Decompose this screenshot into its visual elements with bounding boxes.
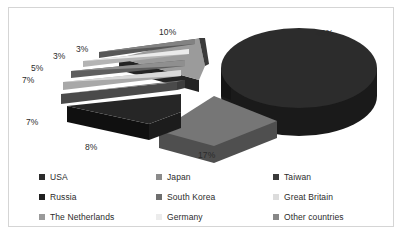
pie-chart-plot-area: 40% 17% 10% 8% 7% 7% 5% 3% 3% bbox=[9, 8, 395, 168]
pie-label-germany: 3% bbox=[53, 51, 66, 61]
pie-chart-svg bbox=[9, 8, 395, 168]
legend-label-great-britain: Great Britain bbox=[284, 192, 333, 202]
legend-item-great-britain[interactable]: Great Britain bbox=[273, 188, 333, 206]
legend-row: The Netherlands Germany Other countries bbox=[9, 208, 395, 226]
legend-item-taiwan[interactable]: Taiwan bbox=[273, 168, 311, 186]
legend-item-usa[interactable]: USA bbox=[39, 168, 68, 186]
legend-label-germany: Germany bbox=[167, 212, 203, 222]
pie-label-south-korea: 7% bbox=[26, 117, 39, 127]
legend-swatch-netherlands bbox=[39, 214, 45, 220]
legend-item-south-korea[interactable]: South Korea bbox=[156, 188, 215, 206]
legend-label-russia: Russia bbox=[50, 192, 77, 202]
pie-label-usa: 40% bbox=[316, 28, 333, 38]
legend-label-japan: Japan bbox=[167, 172, 191, 182]
legend-label-usa: USA bbox=[50, 172, 68, 182]
legend-label-netherlands: The Netherlands bbox=[50, 212, 114, 222]
legend-item-other-countries[interactable]: Other countries bbox=[273, 208, 344, 226]
legend-swatch-russia bbox=[39, 194, 45, 200]
pie-label-japan: 17% bbox=[198, 150, 215, 160]
legend-item-netherlands[interactable]: The Netherlands bbox=[39, 208, 114, 226]
pie-label-russia: 8% bbox=[85, 142, 98, 152]
legend-swatch-usa bbox=[39, 174, 45, 180]
legend-label-taiwan: Taiwan bbox=[284, 172, 311, 182]
chart-frame: 40% 17% 10% 8% 7% 7% 5% 3% 3% USA Japan … bbox=[8, 7, 394, 227]
legend-label-south-korea: South Korea bbox=[167, 192, 215, 202]
pie-label-great-britain: 7% bbox=[22, 75, 35, 85]
pie-label-netherlands: 5% bbox=[31, 63, 44, 73]
legend-label-other-countries: Other countries bbox=[284, 212, 344, 222]
legend-row: Russia South Korea Great Britain bbox=[9, 188, 395, 206]
chart-legend: USA Japan Taiwan Russia South Korea bbox=[9, 166, 395, 226]
legend-swatch-japan bbox=[156, 174, 162, 180]
legend-row: USA Japan Taiwan bbox=[9, 168, 395, 186]
legend-item-germany[interactable]: Germany bbox=[156, 208, 203, 226]
legend-swatch-great-britain bbox=[273, 194, 279, 200]
legend-item-japan[interactable]: Japan bbox=[156, 168, 191, 186]
legend-item-russia[interactable]: Russia bbox=[39, 188, 77, 206]
legend-swatch-germany bbox=[156, 214, 162, 220]
legend-swatch-taiwan bbox=[273, 174, 279, 180]
legend-swatch-south-korea bbox=[156, 194, 162, 200]
pie-label-taiwan: 10% bbox=[159, 27, 176, 37]
legend-swatch-other-countries bbox=[273, 214, 279, 220]
pie-label-other-countries: 3% bbox=[76, 44, 89, 54]
